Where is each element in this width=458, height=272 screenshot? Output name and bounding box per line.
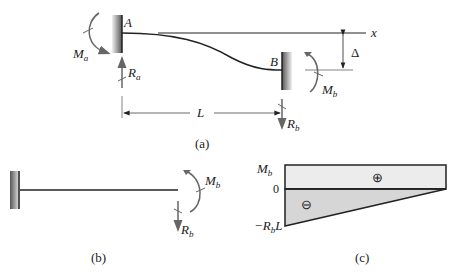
point-b-label: B [270,54,278,69]
fixed-beam-diagram: A x B Δ Ma Ra Mb Rb L [0,0,458,272]
deflected-beam [122,33,282,70]
figure-b: Mb Rb (b) [10,170,221,265]
caption-b: (b) [91,250,106,265]
moment-b-label: Mb [321,82,338,99]
moment-max-label: Mb [256,161,273,178]
fixed-support-b [282,52,292,90]
reaction-b-label: Rb [180,222,194,239]
positive-moment-region [285,165,446,189]
reaction-a-label: Ra [127,65,141,82]
moment-a-label: Ma [72,46,89,63]
figure-a: A x B Δ Ma Ra Mb Rb L [72,13,377,151]
moment-b-label: Mb [204,173,221,190]
negative-sign: ⊖ [301,197,312,212]
x-axis-label: x [370,25,377,40]
moment-a-arrow [89,13,105,52]
moment-min-label: −RbL [254,218,282,235]
deflection-label: Δ [351,45,359,60]
point-a-label: A [123,15,132,30]
fixed-support-a [112,15,122,53]
caption-a: (a) [195,136,209,151]
zero-label: 0 [273,182,279,196]
caption-c: (c) [355,250,369,265]
reaction-b-label: Rb [286,116,300,133]
positive-sign: ⊕ [372,170,383,185]
figure-c: Mb 0 −RbL ⊕ ⊖ (c) [254,161,446,265]
span-label: L [196,105,204,120]
